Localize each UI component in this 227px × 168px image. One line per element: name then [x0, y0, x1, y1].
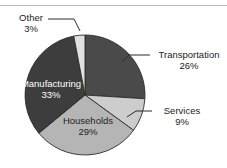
leader-line-other — [48, 19, 80, 31]
slice-label-households-name: Households — [63, 115, 113, 126]
slice-label-other-value: 3% — [13, 23, 49, 34]
slice-label-other: Other 3% — [13, 12, 49, 34]
slice-label-services: Services 9% — [154, 105, 210, 127]
slice-label-services-name: Services — [164, 105, 200, 116]
slice-label-manufacturing-name: Manufacturing — [21, 78, 81, 89]
slice-label-manufacturing: Manufacturing 33% — [11, 78, 91, 100]
slice-label-households-value: 29% — [55, 126, 121, 137]
pie-slice-transportation — [85, 35, 145, 99]
chart-plot-area: Other 3% Transportation 26% Services 9% … — [0, 0, 227, 168]
slice-label-manufacturing-value: 33% — [11, 89, 91, 100]
slice-label-households: Households 29% — [55, 115, 121, 137]
slice-label-transportation: Transportation 26% — [152, 49, 226, 71]
slice-label-other-name: Other — [19, 12, 43, 23]
slice-label-services-value: 9% — [154, 116, 210, 127]
slice-label-transportation-name: Transportation — [159, 49, 220, 60]
pie-chart-figure: Other 3% Transportation 26% Services 9% … — [0, 0, 227, 168]
slice-label-transportation-value: 26% — [152, 60, 226, 71]
